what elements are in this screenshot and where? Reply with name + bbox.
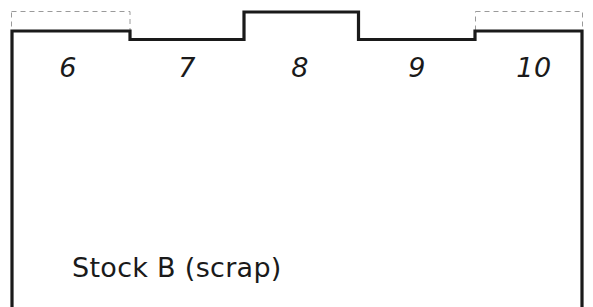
column-label-10: 10 [516,52,551,83]
dashed-region-right [476,12,583,32]
stock-caption: Stock B (scrap) [72,252,282,283]
column-label-7: 7 [178,52,196,83]
stock-cutting-diagram: 6 7 8 9 10 Stock B (scrap) [0,0,593,307]
column-label-8: 8 [291,52,309,83]
column-label-9: 9 [408,52,426,83]
column-label-6: 6 [59,52,77,83]
dashed-region-left [12,12,131,32]
